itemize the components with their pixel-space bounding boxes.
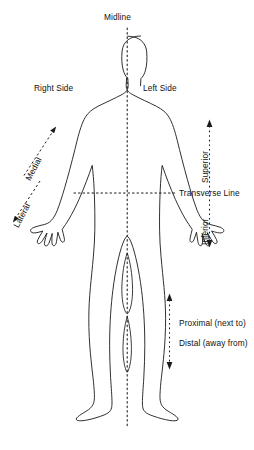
anatomy-diagram: Midline Right Side Left Side Medial Late… [0,0,254,450]
label-left-side: Left Side [143,84,177,92]
label-superior: Superior [201,151,209,183]
proximal-arrowhead [167,294,173,302]
label-proximal: Proximal (next to) [179,319,246,327]
label-inferior: Inferior [201,218,209,245]
label-distal: Distal (away from) [179,339,248,347]
superior-arrowhead [207,120,213,128]
distal-arrowhead [167,362,173,370]
label-midline: Midline [104,13,131,21]
figure-canvas [0,0,254,450]
proximal-distal-axis [167,294,173,370]
label-right-side: Right Side [34,84,73,92]
label-transverse-line: Transverse Line [179,189,240,197]
